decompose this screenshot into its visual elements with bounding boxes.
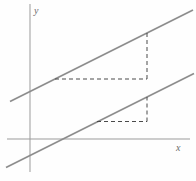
coordinate-plane: y x <box>0 0 196 181</box>
parallel-lines-figure: y x <box>0 0 196 181</box>
y-axis-label: y <box>33 5 39 16</box>
x-axis-label: x <box>175 142 181 153</box>
parallel-lines-group <box>6 10 194 168</box>
lower-parallel-line <box>6 74 194 168</box>
dashed-slope-indicators-group <box>55 33 147 122</box>
